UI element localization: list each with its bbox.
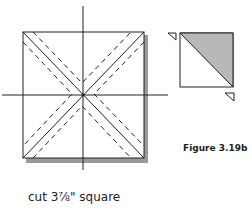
triangle-marker-top [168, 33, 176, 40]
triangle-marker-bottom [225, 93, 234, 101]
figure-label: Figure 3.19b [183, 143, 247, 153]
quilt-cutting-diagram [0, 0, 252, 216]
figure-caption: cut 3⅞" square [28, 190, 120, 204]
